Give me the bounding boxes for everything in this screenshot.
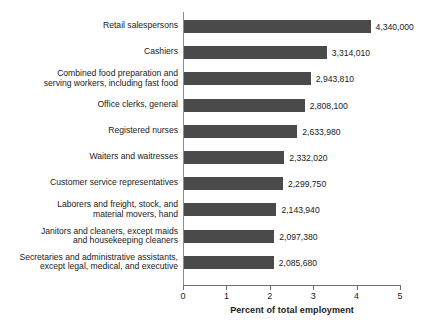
bar-category-label: Customer service representatives (0, 178, 178, 188)
bar-value-label: 2,085,680 (279, 258, 317, 268)
x-tick-label: 4 (345, 291, 369, 302)
x-tick-mark (357, 286, 358, 290)
bar-value-label: 2,299,750 (288, 179, 326, 189)
bar-row: Retail salespersons4,340,000 (0, 20, 432, 33)
bar (184, 230, 274, 243)
bar-value-label: 4,340,000 (376, 22, 414, 32)
x-tick-label: 1 (214, 291, 238, 302)
bar-row: Customer service representatives2,299,75… (0, 177, 432, 190)
x-tick-mark (313, 286, 314, 290)
bar-row: Combined food preparation and serving wo… (0, 72, 432, 85)
bar-row: Secretaries and administrative assistant… (0, 256, 432, 269)
x-tick-label: 0 (171, 291, 195, 302)
bar-category-label: Laborers and freight, stock, and materia… (0, 200, 178, 219)
bar-row: Waiters and waitresses2,332,020 (0, 151, 432, 164)
bar (184, 20, 371, 33)
bar-value-label: 2,332,020 (289, 153, 327, 163)
bar (184, 203, 276, 216)
bar-category-label: Office clerks, general (0, 100, 178, 110)
bar (184, 46, 327, 59)
bar (184, 125, 297, 138)
x-tick-mark (270, 286, 271, 290)
x-tick-mark (400, 286, 401, 290)
bar-value-label: 3,314,010 (332, 48, 370, 58)
bar-category-label: Retail salespersons (0, 21, 178, 31)
bar-row: Cashiers3,314,010 (0, 46, 432, 59)
x-axis-title: Percent of total employment (183, 305, 401, 315)
x-tick-mark (226, 286, 227, 290)
bar (184, 177, 283, 190)
horizontal-bar-chart: Retail salespersons4,340,000Cashiers3,31… (0, 0, 432, 327)
bar-value-label: 2,943,810 (316, 74, 354, 84)
bar-category-label: Waiters and waitresses (0, 152, 178, 162)
x-axis-line (183, 285, 401, 286)
bar (184, 256, 274, 269)
bar (184, 151, 284, 164)
bar-value-label: 2,808,100 (310, 101, 348, 111)
bar-row: Registered nurses2,633,980 (0, 125, 432, 138)
bar-category-label: Registered nurses (0, 126, 178, 136)
x-tick-label: 5 (388, 291, 412, 302)
bar-row: Janitors and cleaners, except maids and … (0, 230, 432, 243)
bar-value-label: 2,633,980 (302, 127, 340, 137)
bar-row: Office clerks, general2,808,100 (0, 99, 432, 112)
bar-value-label: 2,143,940 (281, 205, 319, 215)
x-tick-label: 3 (301, 291, 325, 302)
bar-category-label: Combined food preparation and serving wo… (0, 69, 178, 88)
bar-category-label: Janitors and cleaners, except maids and … (0, 227, 178, 246)
bar-value-label: 2,097,380 (279, 232, 317, 242)
x-tick-mark (183, 286, 184, 290)
bar (184, 72, 311, 85)
bar-category-label: Secretaries and administrative assistant… (0, 253, 178, 272)
bar-row: Laborers and freight, stock, and materia… (0, 203, 432, 216)
x-tick-label: 2 (258, 291, 282, 302)
bar-category-label: Cashiers (0, 47, 178, 57)
bar (184, 99, 305, 112)
